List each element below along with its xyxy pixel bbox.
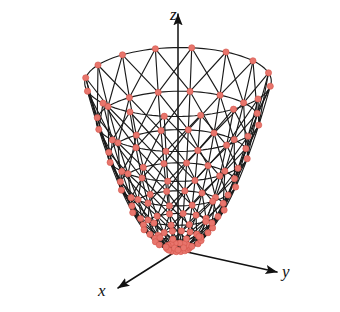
data-point xyxy=(192,177,198,183)
data-point xyxy=(84,88,90,94)
data-point xyxy=(189,243,195,249)
data-point xyxy=(166,211,172,217)
mesh-diagonal xyxy=(150,164,164,195)
data-point xyxy=(107,159,113,165)
data-point xyxy=(240,100,246,106)
data-point xyxy=(224,142,230,148)
data-point xyxy=(156,242,162,248)
data-point xyxy=(94,115,100,121)
data-point xyxy=(175,247,181,253)
mesh-diagonal xyxy=(158,92,188,130)
mesh-diagonal xyxy=(166,115,201,151)
x-axis xyxy=(118,250,178,288)
data-point xyxy=(117,179,123,185)
data-point xyxy=(205,163,211,169)
mesh-diagonal xyxy=(226,52,244,103)
data-point xyxy=(186,222,192,228)
data-point xyxy=(147,231,153,237)
data-point xyxy=(189,45,195,51)
data-point xyxy=(198,112,204,118)
data-point xyxy=(196,233,202,239)
data-point xyxy=(182,188,188,194)
data-point xyxy=(118,187,124,193)
data-point xyxy=(163,244,169,250)
data-point xyxy=(95,62,101,68)
mesh-diagonal xyxy=(158,48,192,93)
paraboloid-surface-figure: z y x xyxy=(0,0,340,312)
mesh-diagonal xyxy=(164,130,188,164)
data-point xyxy=(96,126,102,132)
data-point xyxy=(100,100,106,106)
mesh-diagonal xyxy=(220,61,253,95)
mesh-diagonal xyxy=(227,145,238,168)
data-point xyxy=(254,110,260,116)
data-point xyxy=(217,173,223,179)
mesh-diagonal xyxy=(214,133,225,171)
data-point xyxy=(83,75,89,81)
data-point xyxy=(250,58,256,64)
mesh-diagonal xyxy=(108,55,122,107)
mesh-diagonal xyxy=(192,48,220,95)
data-point xyxy=(223,49,229,55)
data-point xyxy=(244,156,250,162)
data-point xyxy=(130,210,136,216)
data-point xyxy=(163,148,169,154)
data-point xyxy=(185,127,191,133)
data-point xyxy=(180,210,186,216)
mesh-diagonal xyxy=(136,135,164,163)
data-point xyxy=(155,89,161,95)
mesh-diagonal xyxy=(161,91,190,130)
data-point xyxy=(161,161,167,167)
data-point xyxy=(127,109,133,115)
data-point xyxy=(157,235,163,241)
data-point xyxy=(245,133,251,139)
data-point xyxy=(145,217,151,223)
data-point xyxy=(168,222,174,228)
data-point xyxy=(230,106,236,112)
data-point xyxy=(187,229,193,235)
data-point xyxy=(178,228,184,234)
x-axis-label: x xyxy=(98,282,106,299)
data-point xyxy=(151,220,157,226)
data-point xyxy=(137,216,143,222)
data-point xyxy=(235,165,241,171)
data-point xyxy=(231,176,237,182)
data-point xyxy=(145,200,151,206)
data-point xyxy=(147,191,153,197)
data-point xyxy=(119,52,125,58)
data-point xyxy=(199,190,205,196)
data-point xyxy=(115,140,121,146)
mesh-diagonal xyxy=(155,49,190,92)
data-point xyxy=(205,230,211,236)
data-point xyxy=(106,149,112,155)
data-point xyxy=(169,228,175,234)
data-point xyxy=(119,168,125,174)
data-point xyxy=(109,137,115,143)
data-point xyxy=(222,168,228,174)
y-axis-label: y xyxy=(282,263,290,280)
data-point xyxy=(215,213,221,219)
data-point xyxy=(164,188,170,194)
data-point xyxy=(152,46,158,52)
mesh-diagonal xyxy=(167,163,187,191)
data-point xyxy=(128,195,134,201)
data-point xyxy=(221,207,227,213)
data-point xyxy=(135,196,141,202)
data-point xyxy=(125,171,131,177)
data-point xyxy=(193,212,199,218)
data-point xyxy=(133,132,139,138)
data-point xyxy=(267,83,273,89)
z-axis-label: z xyxy=(170,6,177,23)
data-point xyxy=(210,198,216,204)
data-point xyxy=(129,203,135,209)
data-point xyxy=(158,127,164,133)
data-point xyxy=(181,245,187,251)
data-point xyxy=(161,113,167,119)
data-point xyxy=(183,236,189,242)
data-point xyxy=(165,178,171,184)
data-point xyxy=(187,88,193,94)
data-point xyxy=(265,70,271,76)
data-point xyxy=(170,236,176,242)
data-point xyxy=(217,92,223,98)
data-point xyxy=(255,96,261,102)
